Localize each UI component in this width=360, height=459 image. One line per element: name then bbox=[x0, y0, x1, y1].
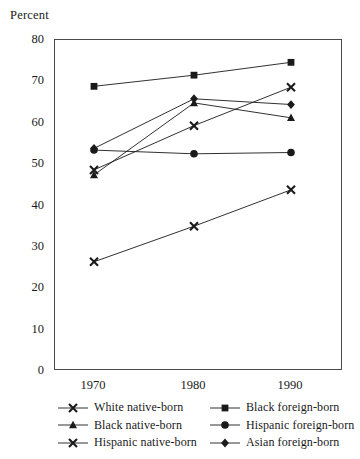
data-point-marker-x bbox=[90, 258, 98, 266]
legend-column-right: Black foreign-bornHispanic foreign-bornA… bbox=[209, 399, 359, 452]
data-point-marker-square bbox=[91, 83, 98, 90]
legend-item: White native-born bbox=[57, 399, 207, 417]
data-point-marker-square bbox=[191, 72, 198, 79]
legend-label: Black native-born bbox=[89, 418, 182, 433]
legend-label: Asian foreign-born bbox=[241, 435, 339, 450]
legend-marker-icon bbox=[209, 418, 241, 432]
data-point-marker-diamond bbox=[190, 94, 198, 103]
data-point-marker-square bbox=[288, 59, 295, 66]
series-hispanic-native-born bbox=[90, 186, 295, 266]
y-tick-label: 20 bbox=[14, 280, 44, 295]
legend-item: Black native-born bbox=[57, 417, 207, 435]
legend-label: Hispanic native-born bbox=[89, 435, 197, 450]
y-tick-label: 50 bbox=[14, 156, 44, 171]
data-point-marker-x bbox=[190, 122, 198, 130]
legend-label: White native-born bbox=[89, 400, 183, 415]
y-tick-label: 70 bbox=[14, 73, 44, 88]
legend-symbol-x bbox=[57, 401, 89, 415]
legend-marker-icon bbox=[209, 436, 241, 450]
y-tick-label: 30 bbox=[14, 238, 44, 253]
plot-area bbox=[54, 39, 342, 370]
legend-label: Black foreign-born bbox=[241, 400, 339, 415]
legend-item: Black foreign-born bbox=[209, 399, 359, 417]
data-point-marker-x bbox=[287, 186, 295, 194]
legend-symbol-circle bbox=[209, 418, 241, 432]
series-lines-and-markers bbox=[55, 40, 343, 371]
legend-item: Hispanic native-born bbox=[57, 434, 207, 452]
y-axis-title: Percent bbox=[10, 8, 49, 23]
legend-symbol-x bbox=[57, 436, 89, 450]
data-point-marker-circle bbox=[221, 421, 229, 429]
chart-figure: Percent 01020304050607080 197019801990 W… bbox=[0, 0, 360, 459]
data-point-marker-diamond bbox=[221, 438, 229, 447]
legend-symbol-square bbox=[209, 401, 241, 415]
legend-label: Hispanic foreign-born bbox=[241, 418, 354, 433]
y-tick-label: 10 bbox=[14, 321, 44, 336]
legend-item: Hispanic foreign-born bbox=[209, 417, 359, 435]
legend-marker-icon bbox=[57, 418, 89, 432]
chart-legend: White native-bornBlack native-bornHispan… bbox=[57, 399, 347, 455]
legend-marker-icon bbox=[209, 401, 241, 415]
x-tick-label: 1980 bbox=[163, 378, 223, 393]
series-black-native-born bbox=[90, 99, 295, 178]
y-tick-label: 60 bbox=[14, 114, 44, 129]
legend-column-left: White native-bornBlack native-bornHispan… bbox=[57, 399, 207, 452]
y-tick-label: 40 bbox=[14, 197, 44, 212]
data-point-marker-triangle bbox=[69, 421, 77, 429]
legend-marker-icon bbox=[57, 436, 89, 450]
data-point-marker-circle bbox=[190, 150, 198, 158]
legend-marker-icon bbox=[57, 401, 89, 415]
data-point-marker-diamond bbox=[287, 100, 295, 109]
y-tick-label: 0 bbox=[14, 363, 44, 378]
data-point-marker-x bbox=[287, 83, 295, 91]
data-point-marker-circle bbox=[287, 149, 295, 157]
data-point-marker-x bbox=[190, 222, 198, 230]
data-point-marker-square bbox=[222, 404, 229, 411]
y-tick-label: 80 bbox=[14, 32, 44, 47]
x-tick-label: 1990 bbox=[260, 378, 320, 393]
series-black-foreign-born bbox=[91, 59, 295, 90]
legend-item: Asian foreign-born bbox=[209, 434, 359, 452]
legend-symbol-diamond bbox=[209, 436, 241, 450]
legend-symbol-triangle bbox=[57, 418, 89, 432]
x-tick-label: 1970 bbox=[63, 378, 123, 393]
